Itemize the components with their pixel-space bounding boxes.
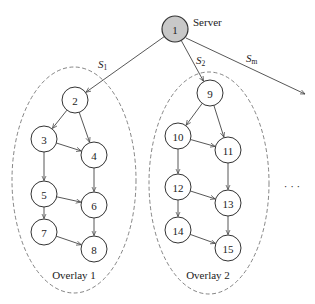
peer-node-3: 3 [31,126,57,152]
edge-7-to-8 [56,236,81,245]
peer-node-12: 12 [165,174,191,200]
peer-node-2: 2 [62,87,88,113]
peer-node-15: 15 [215,235,241,261]
peer-node-6: 6 [81,192,107,218]
nodes-group: 123456789101112131415 [31,16,241,262]
edge-2-to-3 [52,110,67,128]
server-node: 1 [162,16,188,42]
node-label: 10 [173,131,185,143]
edge-3-to-4 [56,143,81,151]
overlay-2-label: Overlay 2 [186,269,230,281]
stream-m-label: Sm [246,52,258,66]
peer-node-14: 14 [165,217,191,243]
node-label: 8 [91,244,97,256]
node-label: 1 [172,24,178,36]
peer-node-5: 5 [31,181,57,207]
edge-5-to-6 [57,197,81,202]
peer-node-9: 9 [197,80,223,106]
server-label: Server [193,16,222,28]
node-label: 12 [173,182,184,194]
node-label: 14 [173,225,185,237]
node-label: 2 [72,95,78,107]
edge-12-to-13 [190,191,215,199]
node-label: 13 [223,198,235,210]
more-overlays-ellipsis: · · · [284,180,301,192]
node-label: 4 [91,150,97,162]
node-label: 5 [41,189,47,201]
edge-9-to-11 [214,105,224,137]
peer-node-8: 8 [81,236,107,262]
node-label: 9 [207,88,213,100]
node-label: 7 [41,227,47,239]
stream-1-label: S1 [98,58,108,72]
peer-node-4: 4 [81,142,107,168]
edges-group [44,37,228,245]
overlay-network-diagram: 123456789101112131415 Server S1 S2 Sm Ov… [0,0,315,304]
edge-10-to-11 [191,140,216,147]
node-label: 3 [41,134,47,146]
edge-14-to-15 [190,234,215,243]
peer-node-7: 7 [31,219,57,245]
peer-node-10: 10 [165,123,191,149]
peer-node-13: 13 [215,190,241,216]
peer-node-11: 11 [215,137,241,163]
node-label: 6 [91,200,97,212]
stream-2-label: S2 [196,54,206,68]
node-label: 15 [223,243,235,255]
node-label: 11 [223,145,234,157]
edge-2-to-4 [79,112,89,142]
edge-9-to-10 [186,103,202,125]
overlay-1-label: Overlay 1 [52,269,96,281]
